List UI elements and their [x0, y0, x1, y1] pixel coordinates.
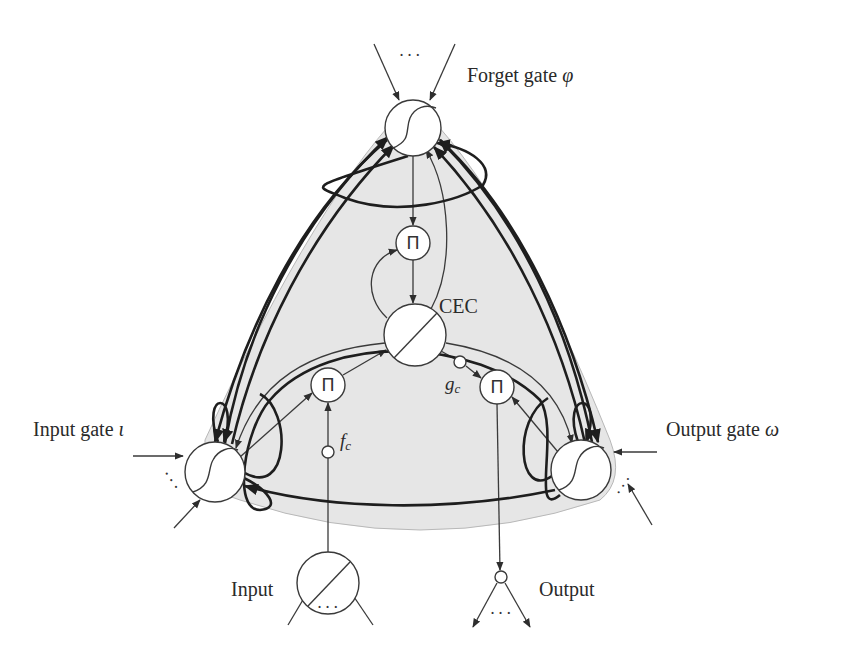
- lstm-memory-block-diagram: [0, 0, 850, 667]
- cec-label: CEC: [439, 295, 478, 318]
- pi-input-symbol: Π: [311, 368, 345, 402]
- input-unit-ellipsis: ···: [317, 598, 341, 617]
- pi-output-symbol: Π: [480, 370, 514, 404]
- gc-node: [454, 356, 466, 368]
- output-unit-ellipsis: ···: [490, 604, 514, 623]
- input-gate-node: [185, 442, 245, 502]
- cec-node: [384, 304, 446, 366]
- edge-forget-in-right: [430, 44, 455, 100]
- gc-label: gc: [445, 373, 460, 395]
- fc-node: [322, 446, 334, 458]
- output-gate-node: [551, 440, 611, 500]
- output-gate-label: Output gate ω: [666, 418, 779, 441]
- output-label: Output: [539, 578, 595, 601]
- forget-gate-ellipsis: ···: [399, 46, 423, 65]
- input-gate-label: Input gate ι: [33, 418, 124, 441]
- pi-forget-symbol: Π: [396, 226, 430, 260]
- edge-input-gate-ext-bottom: [174, 500, 200, 528]
- forget-gate-label: Forget gate φ: [467, 64, 573, 87]
- output-unit-node: [495, 571, 507, 583]
- forget-gate-node: [385, 100, 441, 156]
- fc-label: fc: [340, 430, 351, 452]
- edge-forget-in-left: [374, 44, 399, 100]
- input-label: Input: [231, 578, 273, 601]
